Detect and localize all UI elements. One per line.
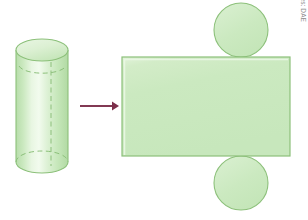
lateral-surface-rectangle [122,57,290,156]
geometry-illustration [0,0,308,220]
transformation-arrow [80,102,119,111]
bottom-base-circle [214,156,268,210]
cylinder-net [122,3,290,210]
cylinder-top-face [16,39,68,61]
top-base-circle [214,3,268,57]
cylinder-solid [16,39,68,173]
arrow-head [112,102,119,111]
figure-canvas: Ilustrações: DAE [0,0,308,220]
